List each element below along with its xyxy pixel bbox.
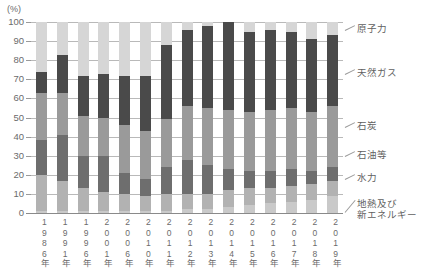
bar-segment-hydro [202, 194, 213, 209]
bar [98, 22, 109, 213]
bar-segment-coal [244, 112, 255, 171]
bar-segment-nuclear [327, 22, 338, 35]
bar-segment-gas [286, 32, 297, 108]
bar-segment-nuclear [36, 22, 47, 72]
bar-segment-geothermal [244, 205, 255, 213]
legend-label-hydro: 水力 [357, 172, 377, 183]
y-axis-tick-label: 50 [0, 112, 24, 123]
bar-segment-coal [223, 110, 234, 169]
x-axis-tick-label: 2010年 [138, 217, 152, 269]
bar-segment-hydro [327, 181, 338, 196]
bar-segment-coal [36, 93, 47, 141]
legend-label-coal: 石炭 [357, 120, 377, 131]
legend-leader-line [345, 174, 355, 180]
y-axis-tick-label: 0 [0, 207, 24, 218]
legend-label-nuclear: 原子力 [357, 23, 387, 34]
legend-label-geothermal-line2: 新エネルギー [357, 209, 417, 220]
bar-segment-oil [244, 171, 255, 188]
y-axis-tick-label: 80 [0, 54, 24, 65]
bar [182, 22, 193, 213]
y-axis-tick-mark [26, 41, 31, 42]
y-axis-tick-label: 70 [0, 73, 24, 84]
x-axis-tick-label: 2006年 [118, 217, 132, 269]
bar-segment-oil [265, 171, 276, 188]
bar-segment-hydro [57, 181, 68, 212]
legend-leader-line [345, 122, 355, 128]
bar-segment-geothermal [306, 200, 317, 213]
x-axis-tick-label: 2015年 [242, 217, 256, 269]
bar [161, 22, 172, 213]
bar-segment-coal [286, 108, 297, 169]
bar-segment-coal [140, 131, 151, 179]
bar-segment-oil [223, 169, 234, 190]
bar-segment-oil [182, 160, 193, 194]
bar-segment-coal [57, 93, 68, 135]
bar-segment-oil [78, 156, 89, 188]
bar [223, 22, 234, 213]
legend-label-geothermal: 地熱及び [357, 198, 397, 209]
bar-segment-coal [119, 125, 130, 173]
bar-segment-coal [161, 119, 172, 167]
y-axis-tick-label: 30 [0, 150, 24, 161]
bar-segment-coal [182, 106, 193, 159]
bar-segment-coal [265, 110, 276, 171]
y-axis-tick-mark [26, 194, 31, 195]
bar [244, 22, 255, 213]
bar-segment-nuclear [78, 22, 89, 75]
bar-segment-oil [306, 171, 317, 184]
x-axis-tick-label: 2014年 [222, 217, 236, 269]
y-axis-unit-label: (%) [7, 4, 21, 14]
bar-segment-gas [36, 72, 47, 93]
bar-segment-geothermal [265, 203, 276, 213]
bar-segment-hydro [244, 188, 255, 205]
y-axis-tick-mark [26, 156, 31, 157]
bar-segment-nuclear [161, 22, 172, 45]
bar-segment-hydro [78, 188, 89, 211]
bar [286, 22, 297, 213]
bar-segment-gas [119, 76, 130, 126]
bar-segment-gas [78, 76, 89, 116]
bar-segment-oil [57, 135, 68, 181]
bar-segment-coal [202, 108, 213, 165]
bar-segment-gas [182, 30, 193, 106]
bar-segment-coal [327, 106, 338, 167]
bar-segment-gas [327, 35, 338, 106]
bar [140, 22, 151, 213]
bar-segment-nuclear [265, 22, 276, 30]
bar-segment-geothermal [327, 196, 338, 213]
bar-segment-coal [98, 118, 109, 156]
bar-segment-gas [202, 26, 213, 108]
x-axis-tick-label: 2013年 [201, 217, 215, 269]
y-axis-tick-mark [26, 137, 31, 138]
bar-segment-nuclear [140, 22, 151, 75]
bar-segment-gas [161, 45, 172, 119]
bar [306, 22, 317, 213]
x-axis-tick-label: 2019年 [326, 217, 340, 269]
bar-segment-oil [98, 156, 109, 192]
y-axis-tick-mark [26, 60, 31, 61]
bar [78, 22, 89, 213]
bar-segment-nuclear [57, 22, 68, 54]
bar-segment-oil [202, 165, 213, 194]
bar-segment-nuclear [119, 22, 130, 75]
bar-segment-hydro [182, 194, 193, 209]
legend-leader-line [345, 25, 355, 31]
stacked-bar-chart: (%) 1009080706050403020100 1986年1991年199… [0, 0, 425, 278]
y-axis-tick-label: 100 [0, 16, 24, 27]
legend-label-gas: 天然ガス [357, 67, 397, 78]
y-axis-tick-label: 10 [0, 188, 24, 199]
y-axis-tick-label: 40 [0, 131, 24, 142]
bar-segment-nuclear [182, 22, 193, 30]
x-axis-tick-label: 2016年 [263, 217, 277, 269]
bar [265, 22, 276, 213]
legend-label-oil: 石油等 [357, 149, 387, 160]
x-axis-tick-label: 2012年 [180, 217, 194, 269]
bar-segment-nuclear [98, 22, 109, 74]
bar-segment-hydro [286, 186, 297, 201]
y-axis-tick-mark [26, 79, 31, 80]
bar-segment-hydro [140, 196, 151, 211]
x-axis-tick-label: 2001年 [97, 217, 111, 269]
bar [36, 22, 47, 213]
bar-segment-gas [98, 74, 109, 118]
y-axis-tick-label: 20 [0, 169, 24, 180]
